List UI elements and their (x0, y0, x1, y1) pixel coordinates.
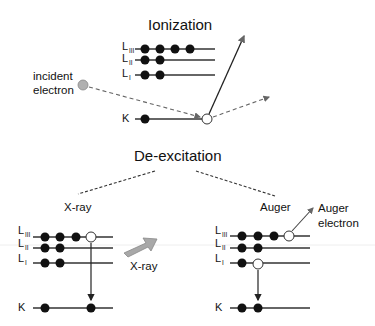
svg-text:II: II (25, 244, 29, 251)
level-label-lii: L II (18, 237, 29, 251)
svg-text:III: III (129, 47, 135, 54)
svg-text:L: L (18, 252, 24, 264)
level-label-li: L I (18, 252, 27, 266)
level-label-k: K (122, 112, 130, 124)
level-label-k: K (18, 301, 26, 313)
svg-text:L: L (122, 67, 128, 79)
svg-text:L: L (122, 52, 128, 64)
electron (156, 71, 165, 80)
branch-line-xray (78, 171, 155, 194)
electron (41, 259, 50, 268)
electron (254, 232, 263, 241)
svg-text:II: II (222, 244, 226, 251)
incident-label-line2: electron (33, 84, 74, 96)
electron (238, 232, 247, 241)
electron (270, 232, 279, 241)
xray-panel: X-ray L III L II L I K X-ray (18, 201, 158, 313)
svg-text:L: L (215, 224, 221, 236)
electron (156, 56, 165, 65)
auger-electron-label-line1: Auger (318, 202, 349, 214)
ionization-title: Ionization (148, 16, 212, 33)
svg-text:III: III (25, 231, 31, 238)
electron (141, 45, 150, 54)
electron (254, 244, 263, 253)
auger-panel: Auger Auger electron L III L II L I K (215, 201, 359, 313)
electron (87, 304, 96, 313)
level-label-liii: L III (18, 224, 31, 238)
branch-line-auger (196, 171, 275, 196)
liii-vacancy (284, 231, 294, 241)
electron (56, 244, 65, 253)
electron (171, 45, 180, 54)
svg-text:L: L (215, 252, 221, 264)
deexcitation-header: De-excitation (78, 147, 275, 196)
level-label-li: L I (215, 252, 224, 266)
electron (41, 233, 50, 242)
electron (41, 304, 50, 313)
xray-emission-arrow-icon (124, 238, 157, 257)
electron (238, 259, 247, 268)
xray-branch-label: X-ray (64, 201, 92, 213)
electron (56, 233, 65, 242)
deexcitation-title: De-excitation (134, 147, 222, 164)
svg-text:III: III (222, 231, 228, 238)
scattered-electron-arrow (213, 97, 269, 117)
electron (254, 304, 263, 313)
xray-emission-label: X-ray (130, 260, 158, 272)
svg-text:I: I (129, 74, 131, 81)
electron (156, 45, 165, 54)
electron (41, 244, 50, 253)
incident-path-arrow (89, 87, 200, 117)
k-vacancy (202, 114, 212, 124)
level-label-k: K (215, 301, 223, 313)
electron (141, 71, 150, 80)
level-label-lii: L II (215, 237, 226, 251)
incident-electron (78, 80, 88, 90)
electron (238, 304, 247, 313)
level-label-lii: L II (122, 52, 133, 66)
liii-vacancy (86, 232, 96, 242)
auger-electron-label-line2: electron (318, 217, 359, 229)
incident-label-line1: incident (33, 70, 73, 82)
svg-text:I: I (25, 259, 27, 266)
svg-text:L: L (18, 224, 24, 236)
svg-text:II: II (129, 59, 133, 66)
svg-text:L: L (18, 237, 24, 249)
auger-electron-arrow (292, 208, 313, 231)
ionization-deexcitation-diagram: Ionization L III L II L I K inci (0, 0, 375, 326)
electron (141, 115, 150, 124)
electron (72, 233, 81, 242)
level-label-liii: L III (215, 224, 228, 238)
li-vacancy (253, 259, 263, 269)
svg-text:I: I (222, 259, 224, 266)
svg-text:L: L (122, 40, 128, 52)
electron (141, 56, 150, 65)
auger-branch-label: Auger (260, 201, 291, 213)
electron (56, 259, 65, 268)
svg-text:L: L (215, 237, 221, 249)
electron (238, 244, 247, 253)
ionization-panel: Ionization L III L II L I K inci (33, 16, 269, 124)
electron (186, 45, 195, 54)
level-label-li: L I (122, 67, 131, 81)
